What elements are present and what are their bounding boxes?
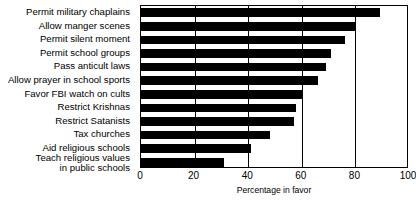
- category-label: Restrict Satanists: [55, 116, 130, 126]
- x-tick-label: 40: [242, 170, 253, 181]
- x-tick-label: 0: [137, 170, 143, 181]
- category-label: Favor FBI watch on cults: [24, 89, 130, 99]
- category-label: Restrict Krishnas: [57, 102, 130, 112]
- category-label: Allow manger scenes: [39, 21, 130, 31]
- x-axis-title: Percentage in favor: [237, 185, 312, 195]
- category-label: Permit military chaplains: [26, 7, 130, 17]
- category-label: Pass anticult laws: [54, 61, 130, 71]
- bar: [141, 90, 302, 99]
- x-tick-label: 80: [349, 170, 360, 181]
- bar: [141, 117, 294, 126]
- bar: [141, 63, 326, 72]
- bar: [141, 36, 345, 45]
- bar: [141, 22, 355, 31]
- bar: [141, 76, 318, 85]
- bar: [141, 131, 270, 140]
- bar: [141, 144, 251, 153]
- plot-area: [140, 5, 408, 168]
- x-tick-label: 100: [400, 170, 416, 181]
- x-tick-label: 20: [188, 170, 199, 181]
- bar: [141, 104, 296, 113]
- bar: [141, 8, 380, 17]
- x-tick-label: 60: [295, 170, 306, 181]
- category-label: Permit school groups: [40, 48, 130, 58]
- category-label-column: Permit military chaplains Allow manger s…: [0, 5, 134, 168]
- bar: [141, 158, 224, 167]
- category-label: Tax churches: [73, 129, 130, 139]
- category-label: Permit silent moment: [40, 34, 130, 44]
- bar-series: [141, 6, 407, 167]
- x-axis: 020406080100 Percentage in favor: [140, 168, 408, 212]
- bar: [141, 49, 331, 58]
- category-label: Allow prayer in school sports: [8, 75, 130, 85]
- category-label: Teach religious values in public schools: [36, 153, 130, 173]
